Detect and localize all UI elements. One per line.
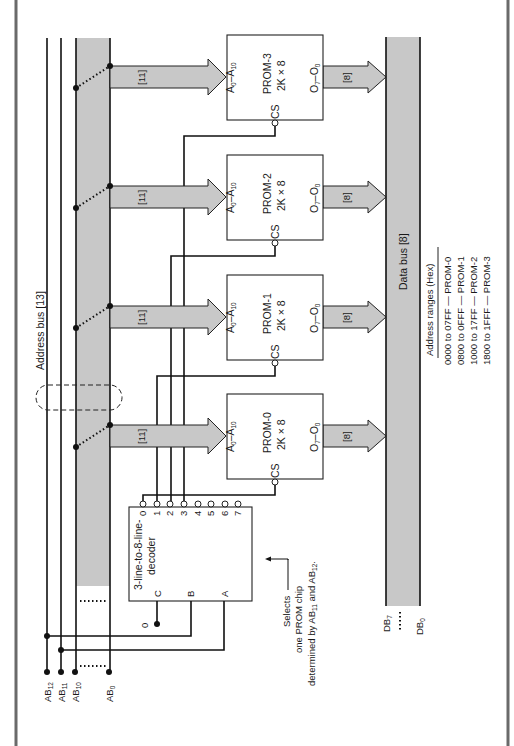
decoder-c-value: 0 [139,623,150,628]
address-range-row-2: 1000 to 17FF — PROM-2 [468,257,479,365]
data-bus [386,37,420,606]
prom-decoding-diagram: Address bus [13] Data bus [8] A0–A10PROM… [0,0,514,746]
decoder-output-bubble [140,501,146,507]
annotation-line2: one PROM chip [293,586,304,653]
address-range-row-1: 0800 to 0FFF — PROM-1 [455,256,466,365]
prom-0: A0–A10PROM-02K × 8O7–O0CS[11][8] [73,394,386,505]
address-width: [11] [136,310,147,325]
address-arrow [110,418,226,454]
addr-label: A0–A10 [224,302,237,333]
decoder-output-label: 2 [164,511,175,516]
data-width: [8] [341,431,352,442]
decoder-input-b: B [185,591,196,597]
tap-dot [107,183,113,189]
output-label: O7–O0 [308,183,321,213]
prom-name: PROM-0 [261,412,273,453]
label-db7: DB7 [381,615,393,632]
cs-bubble [272,240,278,246]
data-width: [8] [341,312,352,323]
address-width: [11] [136,70,147,85]
addr-label: A0–A10 [224,62,237,93]
decoder: 3-line-to-8-line- decoder C B A 01234567 [129,501,252,601]
cs-label: CS [269,344,281,359]
data-bus-line-labels: DB7 DB0 [381,612,426,635]
addr-label: A0–A10 [224,421,237,452]
decoder-output-label: 4 [192,511,203,516]
cs-label: CS [269,104,281,119]
decoder-output-label: 5 [205,511,216,516]
address-arrow [110,59,226,95]
prom-size: 2K × 8 [275,419,287,450]
label-ab0: AB0 [104,685,116,702]
data-arrow [323,181,386,213]
prom-size: 2K × 8 [275,300,287,331]
prom-name: PROM-1 [261,293,273,334]
decoder-output-bubble [235,501,241,507]
data-width: [8] [341,72,352,83]
annotation-line1: Selects [281,596,292,627]
decoder-label-line2: decoder [145,537,157,575]
address-bus [36,38,122,672]
cs-label: CS [269,224,281,239]
address-width: [11] [136,190,147,205]
selects-annotation: Selects one PROM chip determined by AB11… [265,557,318,687]
tap-dot [107,63,113,69]
label-ab12: AB12 [42,682,54,702]
decoder-output-label: 1 [151,511,162,516]
address-ranges-title: Address ranges (Hex) [424,264,435,356]
decoder-output-bubble [154,501,160,507]
prom-name: PROM-2 [261,173,273,214]
output-label: O7–O0 [308,422,321,452]
address-bus-label: Address bus [13] [34,291,46,370]
decoder-output-bubble [181,501,187,507]
prom-size: 2K × 8 [275,60,287,91]
decoder-output-bubble [195,501,201,507]
decoder-output-bubble [222,501,228,507]
decoder-output-label: 3 [178,511,189,516]
decoder-output-label: 0 [137,511,148,516]
prom-name: PROM-3 [261,53,273,94]
tap-dot [107,303,113,309]
address-ranges: Address ranges (Hex) 0000 to 07FF — PROM… [424,247,492,365]
addr-label: A0–A10 [224,182,237,213]
address-width: [11] [136,429,147,444]
label-ab11: AB11 [56,682,68,702]
output-label: O7–O0 [308,303,321,333]
address-range-row-0: 0000 to 07FF — PROM-0 [442,257,453,365]
decoder-output-label: 7 [232,511,243,516]
tap-dot [73,205,79,211]
address-line-labels: AB12 AB11 AB10 AB0 [42,682,116,702]
decoder-input-c: C [152,590,163,597]
tap-dot [73,444,79,450]
decoder-input-a: A [219,590,230,597]
decoder-label-line1: 3-line-to-8-line- [132,519,144,590]
prom-size: 2K × 8 [275,180,287,211]
output-label: O7–O0 [308,63,321,93]
decoder-output-label: 6 [219,511,230,516]
data-arrow [323,420,386,452]
cs-label: CS [269,463,281,478]
decoder-output-bubble [167,501,173,507]
address-arrow [110,179,226,215]
address-range-row-3: 1800 to 1FFF — PROM-3 [481,256,492,365]
cs-bubble [272,120,278,126]
data-width: [8] [341,192,352,203]
label-ab10: AB10 [70,682,82,702]
cs-bubble [272,360,278,366]
tap-dot [107,422,113,428]
cs-bubble [272,479,278,485]
data-arrow [323,61,386,93]
tap-dot [73,85,79,91]
address-arrow [110,299,226,335]
decoder-input-wiring: 0 [44,601,224,675]
tap-dot [73,325,79,331]
annotation-line3: determined by AB11 and AB12. [306,561,318,686]
data-arrow [323,301,386,333]
data-bus-label: Data bus [8] [397,233,409,290]
label-db0: DB0 [414,618,426,635]
decoder-output-bubble [208,501,214,507]
